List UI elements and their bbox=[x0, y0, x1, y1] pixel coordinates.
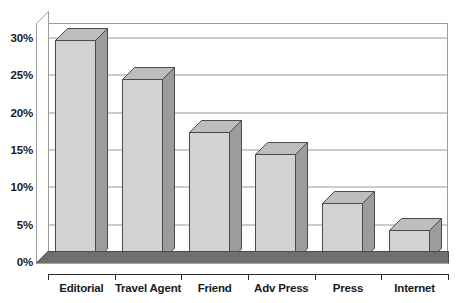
bar-side-face bbox=[229, 120, 241, 260]
axis-wall-3d bbox=[36, 11, 48, 262]
x-axis-tickmark bbox=[248, 274, 249, 280]
x-axis-tickmark bbox=[115, 274, 116, 280]
y-axis-tick-label: 15% bbox=[0, 144, 33, 156]
bar-front-face bbox=[56, 40, 96, 260]
x-axis-tickmark bbox=[315, 274, 316, 280]
plot-border-right bbox=[447, 23, 448, 262]
y-axis-tick-label: 10% bbox=[0, 181, 33, 193]
x-axis-tickmark bbox=[381, 274, 382, 280]
y-axis-tick-label: 5% bbox=[0, 219, 33, 231]
plot-border-left bbox=[48, 23, 49, 262]
bar bbox=[255, 142, 309, 262]
x-axis-category-label: Internet bbox=[394, 282, 435, 294]
y-axis-tick-label: 25% bbox=[0, 69, 33, 81]
plot-border-top bbox=[48, 23, 448, 24]
x-axis-category-label: Editorial bbox=[59, 282, 103, 294]
x-axis-category-label: Press bbox=[333, 282, 363, 294]
bar-side-face bbox=[296, 142, 308, 260]
bar-front-face bbox=[256, 154, 296, 260]
x-axis-category-label: Adv Press bbox=[254, 282, 308, 294]
floor-front bbox=[37, 264, 449, 275]
x-axis-category-label: Travel Agent bbox=[115, 282, 181, 294]
bar bbox=[122, 67, 176, 262]
floor-top bbox=[37, 252, 449, 264]
x-axis-tickmark bbox=[448, 274, 449, 280]
x-axis-tickmark bbox=[181, 274, 182, 280]
y-axis-labels: 0%5%10%15%20%25%30% bbox=[0, 0, 33, 303]
bar-front-face bbox=[189, 132, 229, 260]
wall-face bbox=[37, 12, 49, 263]
bar-chart: 0%5%10%15%20%25%30% EditorialTravel Agen… bbox=[0, 0, 460, 303]
y-axis-tick-label: 20% bbox=[0, 107, 33, 119]
y-axis-tick-label: 30% bbox=[0, 32, 33, 44]
bar-side-face bbox=[96, 28, 108, 260]
bar-side-face bbox=[162, 68, 174, 261]
bar bbox=[189, 120, 243, 262]
floor-plinth-3d bbox=[36, 251, 448, 275]
plot-area bbox=[48, 23, 448, 262]
bar-front-face bbox=[123, 80, 163, 261]
x-axis-tickmark bbox=[48, 274, 49, 280]
x-axis-category-label: Friend bbox=[198, 282, 232, 294]
y-axis-tick-label: 0% bbox=[0, 256, 33, 268]
bar bbox=[55, 28, 109, 262]
